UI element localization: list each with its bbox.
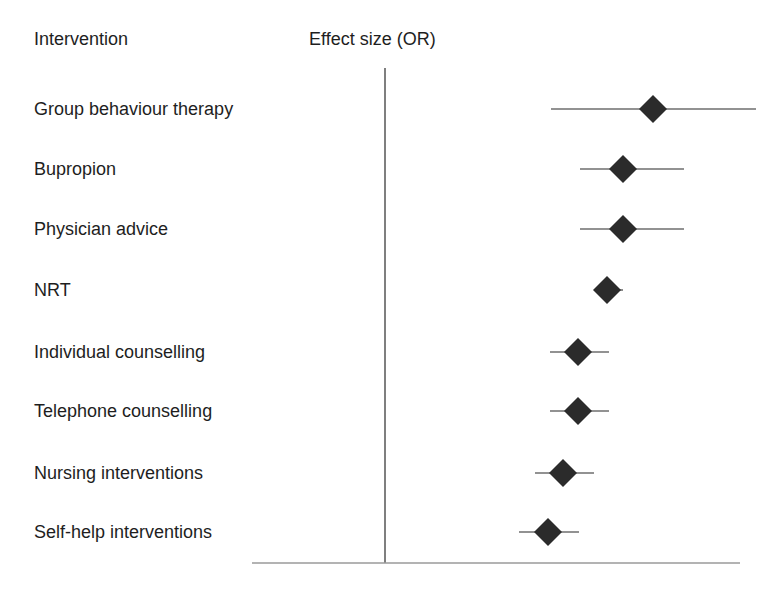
forest-row [550,338,609,366]
diamond-marker-icon [609,215,637,243]
forest-rows [519,95,756,546]
forest-row [580,215,684,243]
diamond-marker-icon [564,338,592,366]
forest-row [550,397,609,425]
diamond-marker-icon [609,155,637,183]
diamond-marker-icon [593,276,621,304]
forest-row [535,459,594,487]
diamond-marker-icon [534,518,562,546]
forest-row [551,95,756,123]
forest-row [519,518,579,546]
forest-row [593,276,623,304]
forest-plot [0,0,784,597]
forest-row [580,155,684,183]
diamond-marker-icon [564,397,592,425]
diamond-marker-icon [639,95,667,123]
diamond-marker-icon [549,459,577,487]
